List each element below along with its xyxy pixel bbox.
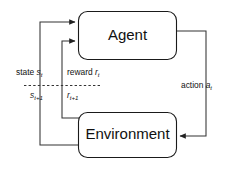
- reward-arrow-line: [62, 41, 79, 118]
- edge-reward-path: [62, 41, 79, 118]
- state-next-subscript: t+1: [34, 94, 43, 101]
- reward-word: reward: [67, 67, 93, 77]
- reward-next-subscript: t+1: [70, 94, 79, 101]
- state-label-next: st+1: [30, 90, 43, 101]
- reward-label-current: reward rt: [67, 67, 100, 78]
- environment-label: Environment: [85, 125, 170, 142]
- reward-label-next: rt+1: [67, 90, 78, 101]
- state-subscript: t: [41, 71, 43, 78]
- action-label: action at: [181, 80, 212, 91]
- action-word: action: [181, 80, 204, 90]
- action-subscript: t: [210, 84, 212, 91]
- diagram-canvas: Agent Environment state st st+1 reward r…: [0, 0, 243, 169]
- edge-label-action: action at: [181, 80, 212, 91]
- state-label-current: state st: [16, 67, 43, 78]
- node-agent[interactable]: Agent: [79, 12, 177, 60]
- agent-environment-diagram: Agent Environment state st st+1 reward r…: [0, 0, 243, 169]
- state-word: state: [16, 67, 34, 77]
- node-environment[interactable]: Environment: [79, 113, 177, 158]
- edge-label-reward: reward rt rt+1: [67, 67, 100, 101]
- reward-subscript: t: [98, 71, 100, 78]
- edge-label-state: state st st+1: [16, 67, 43, 101]
- edge-state-path: [40, 22, 79, 145]
- state-arrow-line: [40, 22, 79, 145]
- agent-label: Agent: [108, 26, 148, 43]
